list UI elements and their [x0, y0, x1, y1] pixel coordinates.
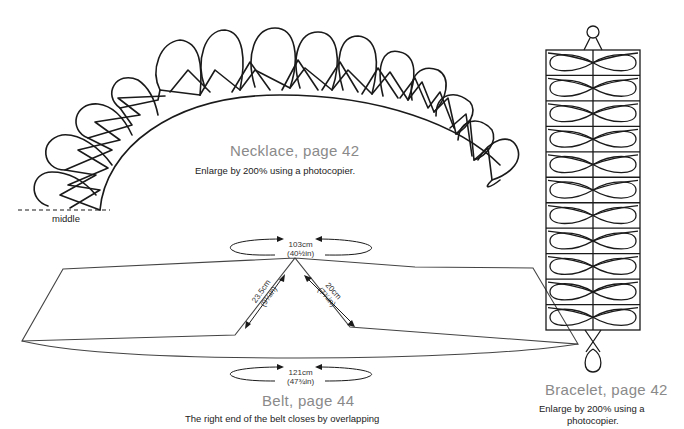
belt-top-in: (40½in) [287, 249, 314, 258]
middle-label: middle [52, 213, 80, 224]
belt-title: Belt, page 44 [262, 392, 354, 409]
belt-bottom-in: (47¾in) [287, 377, 314, 386]
belt-top-dimension: 103cm (40½in) [287, 240, 314, 258]
bracelet-note-line1: Enlarge by 200% using a [539, 403, 645, 414]
belt-bottom-cm: 121cm [287, 368, 314, 377]
bracelet-title: Bracelet, page 42 [545, 381, 668, 398]
necklace-title: Necklace, page 42 [230, 142, 359, 159]
belt-bottom-dimension: 121cm (47¾in) [287, 368, 314, 386]
patterns-drawing [0, 0, 684, 429]
necklace-note: Enlarge by 200% using a photocopier. [195, 165, 355, 176]
bracelet-template [546, 26, 640, 372]
necklace-template [34, 28, 518, 210]
belt-template [22, 258, 578, 358]
belt-note: The right end of the belt closes by over… [185, 413, 379, 424]
bracelet-note-line2: photocopier. [567, 415, 619, 426]
belt-top-cm: 103cm [287, 240, 314, 249]
